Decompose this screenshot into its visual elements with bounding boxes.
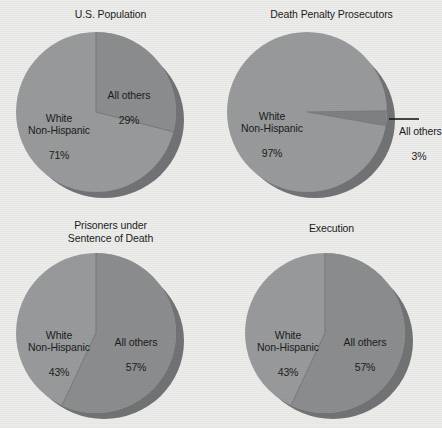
- label-value: 43%: [278, 366, 299, 378]
- label-name: White Non-Hispanic: [241, 110, 303, 134]
- chart-title: Execution: [221, 222, 442, 235]
- label-name: White Non-Hispanic: [28, 329, 90, 353]
- label-value: 3%: [399, 150, 439, 162]
- label-name: All others: [108, 89, 151, 101]
- label-value: 57%: [355, 361, 376, 373]
- label-value: 29%: [119, 114, 140, 126]
- label-all-others: All others 57%: [329, 324, 401, 373]
- label-name: White Non-Hispanic: [28, 112, 90, 136]
- label-all-others: All others 3%: [399, 113, 442, 162]
- label-name: White Non-Hispanic: [257, 329, 319, 353]
- label-value: 43%: [49, 366, 70, 378]
- label-all-others: All others 29%: [88, 77, 170, 126]
- label-value: 71%: [49, 149, 70, 161]
- label-name: All others: [399, 125, 442, 137]
- chart-title: Death Penalty Prosecutors: [221, 8, 442, 21]
- label-name: All others: [115, 336, 158, 348]
- chart-title: Prisoners under Sentence of Death: [0, 219, 221, 244]
- chart-panel-execution: Execution White Non-Hispanic 43% All oth…: [221, 214, 442, 428]
- chart-title: U.S. Population: [0, 8, 221, 21]
- label-white-non-hispanic: White Non-Hispanic 43%: [245, 317, 331, 378]
- chart-panel-death-penalty-prosecutors: Death Penalty Prosecutors White Non-Hisp…: [221, 0, 442, 214]
- label-value: 57%: [126, 361, 147, 373]
- label-name: All others: [344, 336, 387, 348]
- chart-panel-us-population: U.S. Population White Non-Hispanic 71%: [0, 0, 221, 214]
- pie-chart-grid: U.S. Population White Non-Hispanic 71%: [0, 0, 442, 428]
- chart-panel-prisoners-under-sentence-of-death: Prisoners under Sentence of Death White …: [0, 214, 221, 428]
- label-white-non-hispanic: White Non-Hispanic 97%: [229, 98, 315, 159]
- label-value: 97%: [262, 147, 283, 159]
- label-all-others: All others 57%: [100, 324, 172, 373]
- label-white-non-hispanic: White Non-Hispanic 43%: [16, 317, 102, 378]
